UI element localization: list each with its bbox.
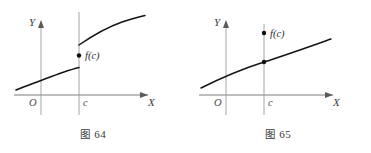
origin-label: O: [29, 97, 37, 108]
figure-64-caption-number: 64: [94, 128, 106, 140]
upper-branch-curve: [79, 16, 145, 46]
x-tick-label-c: c: [268, 97, 273, 108]
figure-64-caption: 图 64: [0, 126, 186, 141]
y-axis-label: Y: [214, 16, 222, 28]
figure-65-plot: f(c) Y X O c: [185, 0, 371, 128]
y-axis-arrow-icon: [223, 20, 229, 28]
x-tick-label-c: c: [83, 97, 88, 108]
x-axis-label: X: [332, 96, 341, 108]
continuous-curve: [201, 39, 331, 88]
y-axis-label: Y: [29, 16, 37, 28]
curve-point-at-c: [262, 60, 266, 64]
x-axis-label: X: [147, 96, 156, 108]
figure-65-caption: 图 65: [185, 126, 371, 141]
x-axis-arrow-icon: [140, 92, 148, 98]
figure-65-caption-prefix: 图: [265, 128, 276, 140]
figure-64: f(c) Y X O c 图 64: [0, 0, 186, 153]
figure-64-caption-prefix: 图: [80, 128, 91, 140]
y-axis-arrow-icon: [38, 20, 44, 28]
figure-sheet: f(c) Y X O c 图 64: [0, 0, 371, 153]
x-axis-arrow-icon: [325, 92, 333, 98]
lower-branch-curve: [16, 68, 79, 91]
origin-label: O: [214, 97, 222, 108]
f-of-c-label: f(c): [85, 50, 100, 62]
figure-64-plot: f(c) Y X O c: [0, 0, 186, 128]
f-of-c-point: [77, 53, 81, 57]
figure-65-caption-number: 65: [279, 128, 291, 140]
f-of-c-label: f(c): [270, 28, 285, 40]
figure-65: f(c) Y X O c 图 65: [185, 0, 371, 153]
f-of-c-point: [262, 31, 266, 35]
